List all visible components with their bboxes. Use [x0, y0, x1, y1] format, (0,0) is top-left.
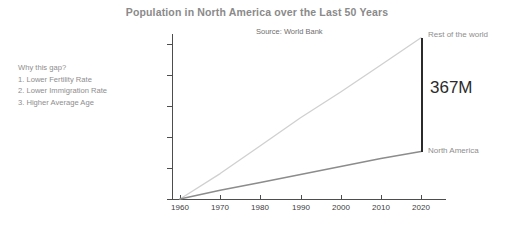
series-label-north-america: North America: [428, 146, 479, 155]
line-north-america: [180, 152, 421, 199]
gap-value-label: 367M: [430, 78, 473, 98]
chart-canvas: Population in North America over the Las…: [0, 0, 514, 227]
gap-bracket: [421, 38, 423, 152]
series-label-rest-of-the-world: Rest of the world: [428, 30, 488, 39]
